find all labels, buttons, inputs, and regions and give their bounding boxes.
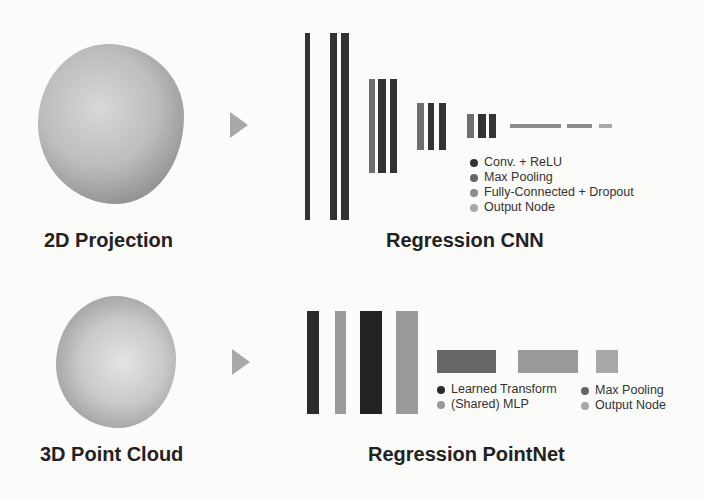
cnn-conv-layer [341,33,349,220]
transform-dot-icon [437,386,445,394]
legend-item-output: Output Node [581,398,666,413]
conv-dot-icon [470,159,478,167]
pointnet-mlp-layer [335,311,346,414]
fc-dot-icon [470,189,478,197]
pointnet-pool-layer [437,350,496,373]
pointnet-legend-right: Max Pooling Output Node [581,383,666,413]
regression-pointnet-label: Regression PointNet [368,443,565,466]
legend-item-transform: Learned Transform [437,382,557,397]
pointnet-transform-layer [307,311,319,414]
legend-item-output: Output Node [470,200,634,215]
arrow-right-icon [230,112,248,138]
pointnet-output-node [596,350,618,373]
legend-item-conv: Conv. + ReLU [470,155,634,170]
output-dot-icon [470,204,478,212]
cnn-legend: Conv. + ReLU Max Pooling Fully-Connected… [470,155,634,215]
legend-item-pool: Max Pooling [470,170,634,185]
cnn-conv-layer [439,103,446,150]
pool-dot-icon [470,174,478,182]
pointnet-mlp-layer [518,350,578,373]
cnn-conv-layer [428,103,434,150]
2d-projection-label: 2D Projection [44,229,173,252]
3d-point-cloud-label: 3D Point Cloud [40,443,183,466]
cnn-conv-layer [378,79,386,173]
legend-item-fc: Fully-Connected + Dropout [470,185,634,200]
cnn-conv-layer [390,79,397,173]
cnn-pool-layer [369,79,375,173]
2d-projection-image [38,44,184,204]
cnn-pool-layer [467,114,474,138]
arrow-right-icon [232,349,250,375]
cnn-conv-layer [330,33,337,220]
output-dot-icon [581,402,589,410]
legend-item-pool: Max Pooling [581,383,666,398]
cnn-pool-layer [417,103,424,150]
cnn-fc-layer [510,124,561,128]
regression-cnn-label: Regression CNN [386,229,544,252]
3d-point-cloud-image [56,296,176,428]
pointnet-legend-left: Learned Transform (Shared) MLP [437,382,557,412]
legend-item-mlp: (Shared) MLP [437,397,557,412]
pointnet-mlp-layer [396,311,418,414]
cnn-conv-layer [478,114,486,138]
cnn-conv-layer [489,114,496,138]
cnn-fc-layer [567,124,592,128]
cnn-input-layer [305,33,310,220]
mlp-dot-icon [437,401,445,409]
pool-dot-icon [581,387,589,395]
pointnet-transform-layer [360,311,382,414]
cnn-output-node [599,124,612,128]
